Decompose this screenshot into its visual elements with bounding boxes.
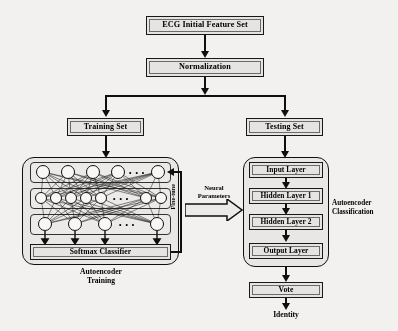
encoder-node xyxy=(111,165,125,179)
decoder-node xyxy=(68,217,82,231)
code-node xyxy=(95,192,107,204)
code-node xyxy=(65,192,77,204)
encoder-node xyxy=(61,165,75,179)
code-node xyxy=(35,192,47,204)
code-node xyxy=(140,192,152,204)
decoder-node xyxy=(150,217,164,231)
decoder-node xyxy=(38,217,52,231)
code-node xyxy=(155,192,167,204)
code-node xyxy=(80,192,92,204)
node-softmax-classifier[interactable]: Softmax Classifier xyxy=(30,244,171,260)
neural-network-edges xyxy=(0,0,398,331)
code-row-ellipsis: • • • xyxy=(113,195,129,202)
diagram-canvas: ECG Initial Feature Set Normalization Tr… xyxy=(0,0,398,331)
encoder-node xyxy=(36,165,50,179)
decoder-row-ellipsis: • • • xyxy=(119,221,135,228)
encoder-node xyxy=(86,165,100,179)
encoder-row-ellipsis: • • • xyxy=(129,169,145,176)
decoder-node xyxy=(98,217,112,231)
encoder-node xyxy=(151,165,165,179)
code-node xyxy=(50,192,62,204)
